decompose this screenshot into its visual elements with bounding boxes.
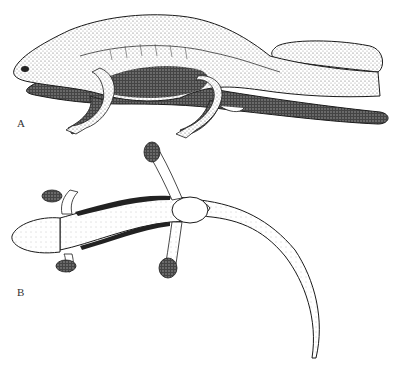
panel-label-b: B [17,286,24,298]
panel-label-a: A [17,117,25,129]
scientific-illustration: A B [0,0,401,371]
salamander-b-dorsal [12,142,319,358]
illustration-canvas [0,0,401,371]
